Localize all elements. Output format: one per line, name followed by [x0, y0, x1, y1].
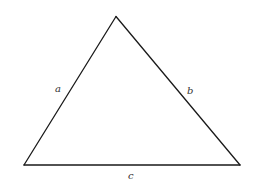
- side-a-label: a: [55, 83, 61, 94]
- side-b-line: [116, 17, 240, 166]
- side-a-line: [24, 17, 116, 166]
- side-c-label: c: [128, 170, 134, 181]
- side-b-label: b: [187, 85, 193, 96]
- triangle-diagram: a b c: [0, 0, 253, 187]
